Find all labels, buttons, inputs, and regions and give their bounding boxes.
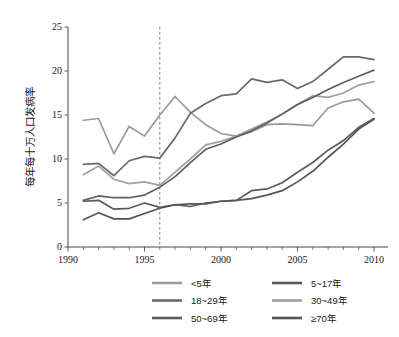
x-tick-label: 1990 bbox=[58, 254, 78, 265]
legend-label-≥70年: ≥70年 bbox=[311, 313, 337, 324]
line-chart-figure: 051015202519901995200020052010每年每十万人口发病率… bbox=[0, 0, 399, 337]
y-axis-title: 每年每十万人口发病率 bbox=[24, 87, 36, 187]
legend-label-50~69年: 50~69年 bbox=[191, 313, 228, 324]
legend-label-18~29年: 18~29年 bbox=[191, 295, 228, 306]
y-axis-ticks: 0510152025 bbox=[52, 21, 68, 252]
y-tick-label: 25 bbox=[52, 21, 62, 32]
x-tick-label: 1995 bbox=[135, 254, 155, 265]
y-tick-label: 15 bbox=[52, 109, 62, 120]
series-line-18~29年 bbox=[83, 57, 374, 176]
legend-label-5~17年: 5~17年 bbox=[311, 278, 342, 289]
legend-label-30~49年: 30~49年 bbox=[311, 295, 348, 306]
y-tick-label: 5 bbox=[57, 197, 62, 208]
series-group bbox=[83, 57, 374, 220]
x-tick-label: 2010 bbox=[364, 254, 384, 265]
series-line-30~49年 bbox=[83, 82, 374, 186]
x-axis-tick-labels: 19901995200020052010 bbox=[58, 254, 384, 265]
chart-container: 051015202519901995200020052010每年每十万人口发病率… bbox=[0, 0, 399, 337]
x-axis-minor-ticks bbox=[68, 247, 374, 252]
legend-label-<5年: <5年 bbox=[191, 278, 212, 289]
series-line-<5年 bbox=[83, 97, 374, 154]
x-tick-label: 2000 bbox=[211, 254, 231, 265]
y-tick-label: 0 bbox=[57, 241, 62, 252]
y-tick-label: 20 bbox=[52, 65, 62, 76]
y-tick-label: 10 bbox=[52, 153, 62, 164]
chart-legend: <5年5~17年18~29年30~49年50~69年≥70年 bbox=[152, 278, 348, 324]
x-tick-label: 2005 bbox=[288, 254, 308, 265]
